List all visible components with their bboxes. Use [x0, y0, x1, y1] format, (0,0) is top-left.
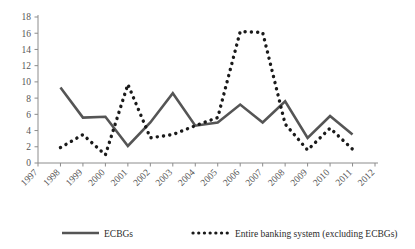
- y-axis-tick-label: 2: [26, 142, 31, 152]
- x-axis-tick-label: 2005: [199, 167, 220, 188]
- x-axis-tick-label: 1998: [41, 167, 62, 188]
- y-axis-tick-label: 0: [26, 158, 31, 168]
- x-axis-tick-label: 2004: [176, 167, 197, 188]
- y-axis-tick-label: 16: [22, 29, 32, 39]
- y-axis-tick-label: 18: [22, 12, 32, 22]
- x-axis-tick-label: 2002: [131, 167, 152, 188]
- y-axis-tick-label: 14: [22, 45, 32, 55]
- y-axis-tick-label: 10: [22, 77, 32, 87]
- x-axis-tick-label: 2001: [109, 167, 130, 188]
- y-axis-tick-label: 8: [26, 94, 31, 104]
- chart-legend: ECBGsEntire banking system (excluding EC…: [62, 229, 398, 240]
- legend-label-1: ECBGs: [104, 229, 133, 239]
- x-axis-tick-label: 2009: [289, 167, 310, 188]
- x-axis-tick-label: 2000: [86, 167, 107, 188]
- legend-label-2: Entire banking system (excluding ECBGs): [235, 229, 398, 240]
- y-axis-tick-label: 4: [26, 126, 31, 136]
- x-axis-tick-label: 1999: [64, 167, 85, 188]
- x-axis-tick-label: 2003: [154, 167, 175, 188]
- x-axis-tick-label: 2012: [356, 167, 377, 188]
- x-axis-tick-label: 2011: [334, 167, 354, 187]
- x-axis-tick-label: 1997: [19, 167, 40, 188]
- x-axis-tick-label: 2008: [266, 167, 287, 188]
- y-axis: 024681012141618: [22, 12, 39, 168]
- data-series-group: [60, 32, 352, 155]
- x-axis-tick-label: 2007: [244, 167, 265, 188]
- x-axis-tick-label: 2006: [221, 167, 242, 188]
- chart-figure: 024681012141618 199719981999200020012002…: [0, 0, 415, 249]
- line-chart: 024681012141618 199719981999200020012002…: [0, 0, 415, 249]
- y-axis-tick-label: 6: [26, 110, 31, 120]
- x-axis: 1997199819992000200120022003200420052006…: [19, 163, 378, 188]
- x-axis-tick-label: 2010: [311, 167, 332, 188]
- series-line-1: [60, 88, 352, 146]
- y-axis-tick-label: 12: [22, 61, 32, 71]
